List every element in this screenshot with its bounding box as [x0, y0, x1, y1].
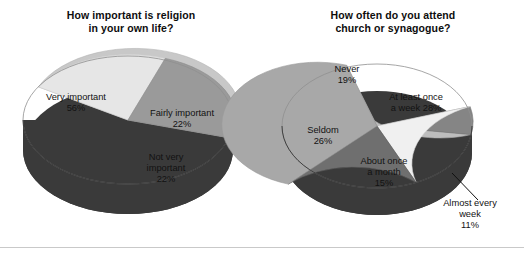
footer-divider: [0, 247, 524, 248]
pie-callout-almost-every-week: Almost every week 11%: [422, 198, 518, 231]
chart-title-religion-importance: How important is religion in your own li…: [0, 9, 262, 35]
pie-chart-worship-attendance: [280, 48, 490, 220]
pie-svg-worship-attendance: [280, 48, 490, 220]
pie-chart-religion-importance: [18, 46, 244, 222]
pie-svg-religion-importance: [18, 46, 244, 222]
chart-title-worship-attendance: How often do you attend church or synago…: [262, 9, 524, 35]
two-pie-chart-figure: How important is religion in your own li…: [0, 0, 524, 255]
chart-panel-worship-attendance: How often do you attend church or synago…: [262, 0, 524, 248]
